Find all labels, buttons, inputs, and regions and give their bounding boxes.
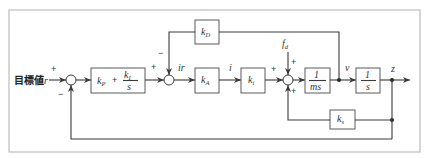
- integrator-numerator: 1: [365, 69, 370, 80]
- input-label: 目標値: [14, 74, 44, 86]
- sum1-minus: −: [58, 89, 63, 99]
- plant-numerator: 1: [314, 69, 319, 80]
- signal-ir: ir: [178, 62, 185, 73]
- sum3-plus-dist: +: [291, 57, 296, 67]
- signal-z: z: [390, 63, 395, 74]
- sum3-plus-in: +: [271, 64, 276, 74]
- pi-plus: +: [112, 75, 117, 85]
- pi-denominator: s: [127, 81, 131, 92]
- input-symbol: r: [44, 75, 48, 86]
- integrator-denominator: s: [366, 81, 370, 92]
- sum2-minus: −: [158, 48, 163, 58]
- block-diagram: 目標値 r + − kP + kI s + − ir kA i ki + fd …: [0, 0, 429, 159]
- signal-v: v: [345, 62, 350, 73]
- sum1-plus: +: [51, 64, 56, 74]
- sum3-plus-fb: +: [291, 86, 296, 96]
- summing-junction-3: [283, 75, 293, 85]
- summing-junction-2: [164, 75, 174, 85]
- sum2-plus: +: [151, 62, 156, 72]
- plant-denominator: ms: [310, 81, 321, 92]
- signal-i: i: [229, 62, 232, 73]
- summing-junction-1: [66, 75, 76, 85]
- disturbance-label: fd: [282, 38, 289, 50]
